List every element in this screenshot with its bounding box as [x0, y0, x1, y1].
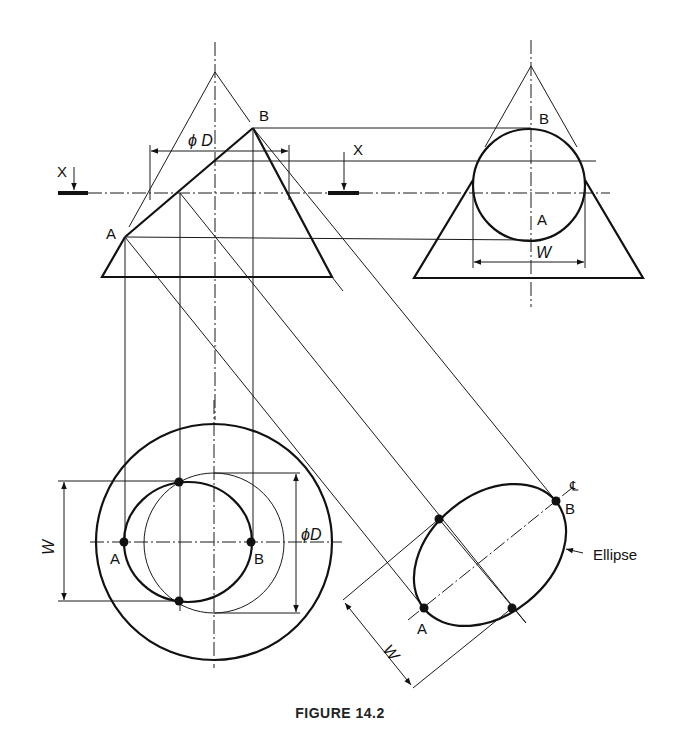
cone-section-drawing: X X ϕ D A B W A B: [0, 0, 680, 739]
ellipse-leader: [566, 549, 583, 553]
side-label-B: B: [539, 110, 549, 127]
centerline-symbol: ℄: [569, 478, 579, 493]
point-A-aux: [420, 604, 429, 613]
side-frustum: [414, 180, 643, 278]
frustum-outline: [102, 128, 332, 277]
top-view: W ϕD A B: [40, 400, 342, 668]
front-view: X X ϕ D A B: [57, 42, 610, 420]
cone-left-edge: [129, 72, 215, 227]
aux-label-B: B: [565, 500, 575, 517]
aux-width-dimension: [345, 603, 411, 685]
aux-width-label: W: [380, 641, 404, 665]
top-label-B: B: [254, 550, 264, 567]
side-label-A: A: [537, 211, 547, 228]
top-diameter-label: ϕD: [301, 526, 322, 543]
side-section-circle: [473, 129, 585, 241]
section-label-left: X: [57, 163, 67, 180]
point-B-aux: [552, 497, 561, 506]
aux-centerline: [408, 488, 572, 620]
figure-caption: FIGURE 14.2: [295, 705, 385, 721]
front-label-A: A: [106, 225, 116, 242]
auxiliary-view: W A B ℄ Ellipse: [343, 455, 637, 688]
oblique-projectors: [125, 128, 556, 623]
front-label-B: B: [259, 107, 269, 124]
point-A-top: [120, 538, 129, 547]
top-label-A: A: [110, 550, 120, 567]
side-view: W A B: [414, 40, 643, 307]
point-B-top: [247, 538, 256, 547]
side-width-label: W: [536, 244, 553, 261]
cone-right-edge-top: [215, 72, 250, 122]
front-diameter-label: ϕ D: [188, 132, 213, 149]
aux-label-A: A: [417, 620, 427, 637]
section-label-right: X: [353, 141, 363, 158]
top-width-label: W: [40, 538, 57, 555]
ellipse-label: Ellipse: [593, 546, 637, 563]
